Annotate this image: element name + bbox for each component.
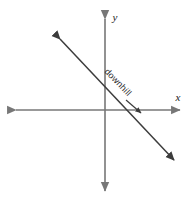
coordinate-axes-figure: x y downhill (0, 0, 196, 207)
downhill-label: downhill (103, 66, 134, 97)
downhill-line-group (60, 39, 174, 160)
downhill-line (60, 39, 174, 160)
y-axis-label: y (112, 11, 118, 23)
x-axis-label: x (175, 91, 181, 103)
